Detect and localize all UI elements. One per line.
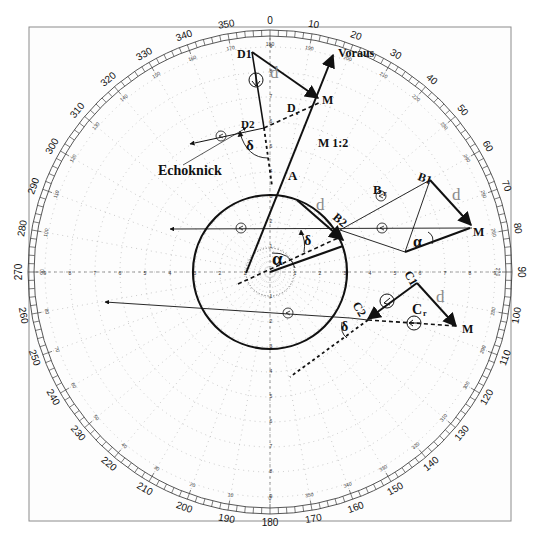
label-dr-sub: r <box>296 109 299 117</box>
label-br: B <box>373 182 382 197</box>
range-tick-label: 6 <box>419 270 422 276</box>
radar-plotting-diagram: 0102030405060708090100110120130140150160… <box>0 0 534 547</box>
range-tick-label: 7 <box>444 270 447 276</box>
label-d-b: d <box>452 185 461 204</box>
range-tick-label: 2 <box>270 218 273 224</box>
range-tick-label: 4 <box>169 270 172 276</box>
bearing-label: 90 <box>516 266 527 278</box>
range-tick-label: 9 <box>494 270 497 276</box>
range-tick-label: 5 <box>270 143 273 149</box>
range-tick-label: 2 <box>270 318 273 324</box>
range-tick-label: 6 <box>119 270 122 276</box>
label-m-c: M <box>462 322 473 336</box>
range-tick-label: 5 <box>394 270 397 276</box>
label-cr: C <box>412 302 422 317</box>
bearing-label: 280 <box>15 219 29 238</box>
range-tick-label: 6 <box>270 418 273 424</box>
label-alpha-b: α <box>413 233 422 250</box>
label-delta-main: δ <box>304 233 311 248</box>
label-d-main: d <box>316 195 325 214</box>
range-tick-label: 7 <box>270 93 273 99</box>
range-tick-label: 9 <box>270 493 273 499</box>
range-tick-label: 8 <box>469 270 472 276</box>
label-scale: M 1:2 <box>318 136 348 150</box>
label-d1: D1 <box>237 47 252 61</box>
bearing-label: 190 <box>217 511 236 525</box>
bearing-label: 170 <box>304 511 323 525</box>
bearing-label: 260 <box>17 306 31 325</box>
bearing-label: 180 <box>262 517 279 528</box>
label-cr-sub: r <box>423 309 427 318</box>
range-tick-label: 7 <box>94 270 97 276</box>
range-tick-label: 2 <box>319 270 322 276</box>
label-dr: D <box>287 101 296 115</box>
bearing-label: 100 <box>509 306 523 325</box>
range-tick-label: 4 <box>270 368 273 374</box>
label-d-top: d <box>270 63 279 82</box>
range-tick-label: 7 <box>270 443 273 449</box>
range-tick-label: 8 <box>69 270 72 276</box>
bearing-label: 80 <box>512 222 525 235</box>
label-d-c: d <box>436 287 445 306</box>
label-d2: D2 <box>241 118 255 130</box>
label-alpha-main: α <box>272 248 283 269</box>
label-delta-echo: δ <box>246 137 254 153</box>
label-echoknick: Echoknick <box>158 163 222 178</box>
bearing-label: 270 <box>13 263 24 280</box>
label-delta-c: δ <box>341 319 348 334</box>
range-tick-label: 4 <box>369 270 372 276</box>
range-tick-label: 2 <box>219 270 222 276</box>
range-tick-label: 9 <box>270 43 273 49</box>
label-m-d: M <box>322 93 333 107</box>
label-a: A <box>288 168 298 183</box>
range-tick-label: 8 <box>270 468 273 474</box>
range-tick-label: 5 <box>144 270 147 276</box>
label-m-b: M <box>473 225 484 239</box>
range-tick-label: 5 <box>270 393 273 399</box>
range-tick-label: 9 <box>44 270 47 276</box>
label-voraus: Voraus <box>338 46 375 60</box>
label-br-sub: r <box>383 189 387 198</box>
bearing-label: 0 <box>267 15 273 26</box>
